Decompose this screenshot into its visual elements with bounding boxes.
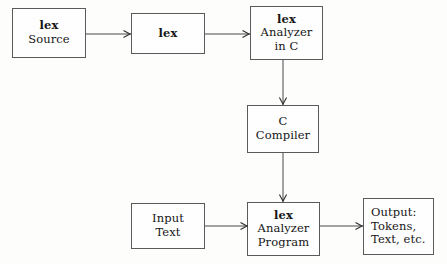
- node-line: Output:: [371, 206, 416, 220]
- arrowhead-icon: [237, 220, 249, 232]
- edge-input-to-program: [205, 220, 248, 232]
- node-line: C: [279, 115, 288, 129]
- node-line: lex: [274, 209, 293, 223]
- arrowhead-icon: [277, 94, 289, 106]
- edge-source-to-lex: [86, 28, 131, 40]
- node-input-text: Input Text: [131, 203, 205, 249]
- arrowhead-icon: [352, 220, 364, 232]
- arrowhead-icon: [277, 191, 289, 203]
- node-line: Input: [152, 212, 184, 226]
- edge-lex-to-analyzer: [205, 28, 250, 40]
- node-line: Analyzer: [261, 26, 313, 40]
- node-output: Output: Tokens, Text, etc.: [363, 198, 434, 255]
- node-lex-analyzer-program: lex Analyzer Program: [247, 202, 320, 256]
- arrowhead-icon: [120, 28, 132, 40]
- edge-compiler-to-program: [277, 153, 289, 202]
- node-c-compiler: C Compiler: [247, 105, 319, 153]
- node-line: Text, etc.: [371, 233, 426, 247]
- diagram-canvas: lex Source lex lex Analyzer in C C Compi…: [0, 0, 447, 264]
- node-line: Program: [258, 236, 309, 250]
- node-line: Text: [155, 226, 180, 240]
- node-line: lex: [277, 13, 296, 27]
- node-line: lex: [158, 27, 177, 41]
- edge-analyzer-to-compiler: [277, 60, 289, 105]
- node-line: Tokens,: [371, 220, 416, 234]
- node-lex: lex: [131, 13, 205, 54]
- node-line: lex: [39, 19, 58, 33]
- edge-program-to-output: [320, 220, 363, 232]
- node-line: Analyzer: [258, 222, 310, 236]
- node-line: Compiler: [256, 129, 310, 143]
- arrowhead-icon: [239, 28, 251, 40]
- node-lex-analyzer-in-c: lex Analyzer in C: [250, 6, 323, 60]
- node-line: in C: [275, 40, 299, 54]
- node-line: Source: [28, 33, 70, 47]
- node-lex-source: lex Source: [12, 8, 86, 58]
